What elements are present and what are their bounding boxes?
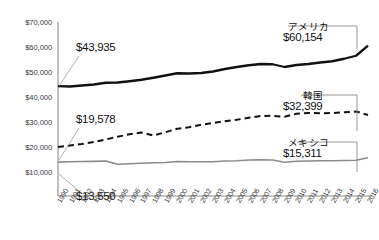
y-tick-label: $30,000 bbox=[2, 118, 52, 127]
line-chart: $70,000 $60,000 $50,000 $40,000 $30,000 … bbox=[0, 0, 379, 240]
y-tick-label: $70,000 bbox=[2, 18, 52, 27]
y-tick-label: $40,000 bbox=[2, 93, 52, 102]
y-tick-label: $10,000 bbox=[2, 168, 52, 177]
start-value-us: $43,935 bbox=[76, 41, 115, 53]
series-value-mexico: $15,311 bbox=[283, 147, 322, 159]
series-value-korea: $32,399 bbox=[283, 100, 322, 112]
series-value-us: $60,154 bbox=[283, 31, 322, 43]
leader-line-us bbox=[59, 56, 79, 86]
leader-line-korea bbox=[59, 128, 79, 160]
y-tick-label: $50,000 bbox=[2, 68, 52, 77]
y-tick-label: $20,000 bbox=[2, 143, 52, 152]
start-value-korea: $19,578 bbox=[76, 113, 115, 125]
y-tick-label: $60,000 bbox=[2, 43, 52, 52]
